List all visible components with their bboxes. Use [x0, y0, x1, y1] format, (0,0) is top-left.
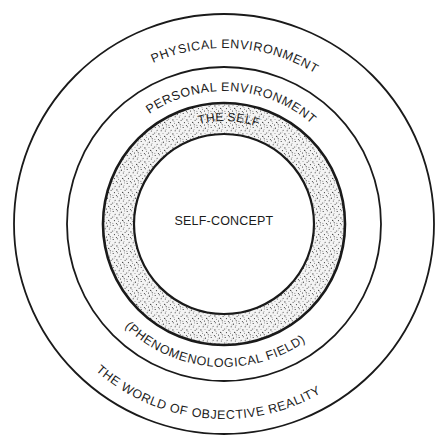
label-world-of-objective-reality-text: THE WORLD OF OBJECTIVE REALITY: [94, 362, 324, 422]
self-concept-diagram: PHYSICAL ENVIRONMENT PERSONAL ENVIRONMEN…: [0, 0, 447, 448]
label-physical-environment: PHYSICAL ENVIRONMENT: [149, 37, 321, 76]
diagram-canvas: PHYSICAL ENVIRONMENT PERSONAL ENVIRONMEN…: [0, 0, 447, 448]
label-physical-environment-text: PHYSICAL ENVIRONMENT: [149, 37, 321, 76]
label-world-of-objective-reality: THE WORLD OF OBJECTIVE REALITY: [94, 362, 324, 422]
label-self-concept: SELF-CONCEPT: [175, 214, 274, 228]
